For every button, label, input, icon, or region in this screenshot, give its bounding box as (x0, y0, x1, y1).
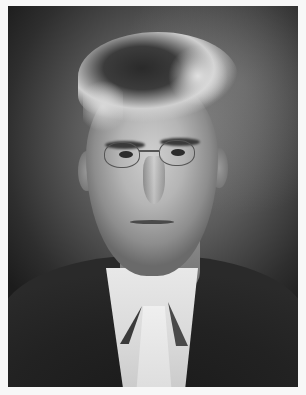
nose (143, 156, 165, 204)
hair-highlight-left (83, 76, 123, 136)
glasses-bridge (139, 150, 159, 152)
glasses-left-lens (104, 142, 140, 168)
glasses-right-lens (159, 140, 195, 166)
mouth (130, 220, 174, 224)
hair-highlight (168, 46, 228, 106)
portrait-photo (8, 6, 298, 387)
